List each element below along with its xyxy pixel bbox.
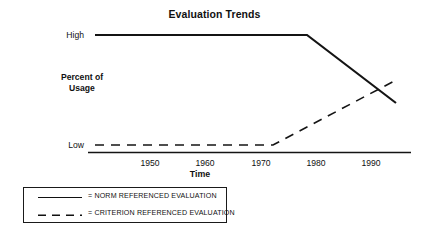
legend-solid-line-icon <box>38 197 82 200</box>
legend-label-criterion-referenced: = CRITERION REFERENCED EVALUATION <box>88 209 235 217</box>
chart-legend: = NORM REFERENCED EVALUATION = CRITERION… <box>23 187 227 223</box>
legend-dashed-line-icon <box>38 214 82 216</box>
series-line-criterion-referenced-evaluation <box>95 79 398 145</box>
legend-item-criterion-referenced: = CRITERION REFERENCED EVALUATION <box>24 206 228 224</box>
chart-figure: Evaluation Trends Percent of Usage High … <box>0 0 429 240</box>
series-line-norm-referenced-evaluation <box>95 35 396 103</box>
legend-item-norm-referenced: = NORM REFERENCED EVALUATION <box>24 189 228 207</box>
legend-label-norm-referenced: = NORM REFERENCED EVALUATION <box>88 192 217 200</box>
